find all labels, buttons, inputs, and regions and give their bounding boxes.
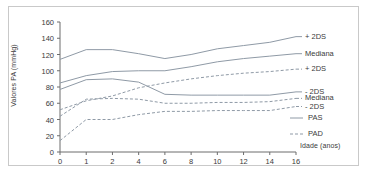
y-tick-label: 140 — [32, 34, 54, 43]
y-tick-label: 120 — [32, 51, 54, 60]
y-tick-label: 20 — [32, 132, 54, 141]
y-tick-label: 60 — [32, 99, 54, 108]
x-axis-title: Idade (anos) — [300, 142, 341, 149]
x-tick-label: 14 — [262, 157, 278, 166]
x-tick-label: 16 — [288, 157, 304, 166]
series-line-pad-2ds — [60, 69, 296, 110]
series-line-pad-mediana — [60, 98, 296, 116]
x-tick-label: 2 — [104, 157, 120, 166]
legend-line-samples — [290, 118, 303, 134]
series-end-label: - 2DS — [305, 102, 324, 111]
y-tick-label: 0 — [32, 148, 54, 157]
legend-label-pas: PAS — [308, 113, 322, 122]
x-tick-label: 0 — [52, 157, 68, 166]
x-tick-label: 8 — [183, 157, 199, 166]
x-tick-label: 12 — [236, 157, 252, 166]
x-tick-label: 1 — [78, 157, 94, 166]
series-end-label: + 2DS — [305, 32, 326, 41]
x-tick-label: 10 — [209, 157, 225, 166]
y-tick-label: 80 — [32, 83, 54, 92]
series-line-pad-2ds — [60, 107, 296, 141]
series-line-pas-2ds — [60, 37, 296, 60]
y-tick-label: 160 — [32, 18, 54, 27]
y-tick-label: 100 — [32, 67, 54, 76]
x-tick-label: 6 — [157, 157, 173, 166]
series-end-label: + 2DS — [305, 64, 326, 73]
series-line-pas-mediana — [60, 54, 296, 83]
legend-label-pad: PAD — [308, 129, 323, 138]
y-axis-title: Valores PA (mmHg) — [10, 39, 17, 113]
x-tick-label: 4 — [131, 157, 147, 166]
chart-axes — [60, 22, 296, 152]
y-tick-label: 40 — [32, 116, 54, 125]
chart-curves — [60, 37, 302, 141]
series-end-label: Mediana — [305, 49, 334, 58]
